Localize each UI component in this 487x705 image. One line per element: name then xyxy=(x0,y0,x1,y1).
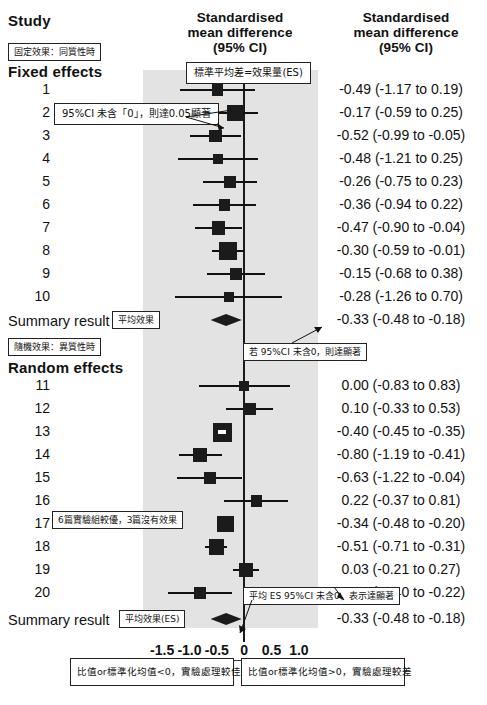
effect-size-marker xyxy=(217,516,233,532)
study-label: 13 xyxy=(4,423,50,439)
effect-size-value: -0.51 (-0.71 to -0.31) xyxy=(318,538,484,554)
effect-size-value: -0.40 (-0.45 to -0.35) xyxy=(318,423,484,439)
callout-footer-right: 比值or標準化均值>0，實驗處理較差 xyxy=(241,658,405,686)
effect-size-marker xyxy=(251,495,262,506)
effect-size-marker xyxy=(204,472,216,484)
callout-mean-effect-es: 平均效果(ES) xyxy=(119,610,185,628)
page-title: Study xyxy=(8,12,51,29)
column-header-values-line3: (95% CI) xyxy=(330,40,482,55)
axis-tick-label: 1.0 xyxy=(279,642,319,658)
marker-inner-slot xyxy=(218,430,226,433)
effect-size-value: -0.36 (-0.94 to 0.22) xyxy=(318,196,484,212)
effect-size-value: -0.49 (-1.17 to 0.19) xyxy=(318,81,484,97)
study-label: 1 xyxy=(4,81,50,97)
study-label: 3 xyxy=(4,127,50,143)
study-label: 18 xyxy=(4,538,50,554)
effect-size-value: -0.34 (-0.48 to -0.20) xyxy=(318,515,484,531)
callout-summary-ci-note: 若 95%CI 未含0，則達顯著 xyxy=(243,343,367,361)
study-label: 17 xyxy=(4,515,50,531)
study-label: 15 xyxy=(4,469,50,485)
effect-size-marker xyxy=(239,381,248,390)
effect-size-value: -0.63 (-1.22 to -0.04) xyxy=(318,469,484,485)
effect-size-marker xyxy=(212,221,226,235)
study-label: 2 xyxy=(4,104,50,120)
effect-size-marker xyxy=(230,268,242,280)
effect-size-marker xyxy=(213,154,223,164)
column-header-values: Standardised mean difference (95% CI) xyxy=(330,10,482,55)
effect-size-value: 0.10 (-0.33 to 0.53) xyxy=(318,400,484,416)
effect-size-value: -0.30 (-0.59 to -0.01) xyxy=(318,242,484,258)
effect-size-marker xyxy=(224,292,233,301)
callout-study17-note: 6篇實驗組較優，3篇沒有效果 xyxy=(52,511,183,529)
column-header-plot-line3: (95% CI) xyxy=(150,40,330,55)
study-label: 7 xyxy=(4,219,50,235)
effect-size-value: -0.47 (-0.90 to -0.04) xyxy=(318,219,484,235)
effect-size-marker xyxy=(209,130,222,143)
effect-size-value: -0.15 (-0.68 to 0.38) xyxy=(318,265,484,281)
column-header-plot: Standardised mean difference (95% CI) xyxy=(150,10,330,55)
effect-size-marker xyxy=(212,84,223,95)
callout-ci-excludes-zero: 95%CI 未含「0」，則達0.05顯著 xyxy=(54,103,219,125)
effect-size-marker xyxy=(219,199,230,210)
effect-size-value: -0.48 (-1.21 to 0.25) xyxy=(318,150,484,166)
callout-mean-es-note: 平均 ES 95%CI 未含0，表示達顯著 xyxy=(243,587,400,605)
column-header-values-line1: Standardised xyxy=(330,10,482,25)
effect-size-marker xyxy=(224,176,237,189)
callout-es-definition: 標準平均差=效果量(ES) xyxy=(186,62,311,84)
study-label: 16 xyxy=(4,492,50,508)
study-label: 4 xyxy=(4,150,50,166)
study-label: 6 xyxy=(4,196,50,212)
effect-size-value: 0.22 (-0.37 to 0.81) xyxy=(318,492,484,508)
effect-size-value: 0.03 (-0.21 to 0.27) xyxy=(318,561,484,577)
summary-effect-value: -0.33 (-0.48 to -0.18) xyxy=(318,610,484,626)
study-label: 8 xyxy=(4,242,50,258)
study-label: 12 xyxy=(4,400,50,416)
column-header-plot-line2: mean difference xyxy=(150,25,330,40)
effect-size-marker xyxy=(209,539,224,554)
column-header-values-line2: mean difference xyxy=(330,25,482,40)
study-label: 10 xyxy=(4,288,50,304)
effect-size-marker xyxy=(239,563,253,577)
study-label: 14 xyxy=(4,446,50,462)
callout-fixed-effects-note: 固定效果：同質性時 xyxy=(8,43,101,61)
study-label: 5 xyxy=(4,173,50,189)
section-title-random-effects: Random effects xyxy=(8,359,123,376)
study-label: 20 xyxy=(4,584,50,600)
effect-size-value: -0.52 (-0.99 to -0.05) xyxy=(318,127,484,143)
effect-size-marker xyxy=(193,448,207,462)
callout-footer-left: 比值or標準化均值<0，實驗處理較佳 xyxy=(70,658,234,686)
section-title-fixed-effects: Fixed effects xyxy=(8,63,102,80)
effect-size-value: -0.28 (-1.26 to 0.70) xyxy=(318,288,484,304)
effect-size-value: -0.80 (-1.19 to -0.41) xyxy=(318,446,484,462)
summary-label-fixed: Summary result xyxy=(8,313,110,329)
effect-size-marker xyxy=(243,403,256,416)
effect-size-marker xyxy=(219,242,237,260)
effect-size-value: -0.17 (-0.59 to 0.25) xyxy=(318,104,484,120)
effect-size-marker xyxy=(194,587,206,599)
effect-size-value: -0.26 (-0.75 to 0.23) xyxy=(318,173,484,189)
callout-random-effects-note: 隨機效果：異質性時 xyxy=(8,338,101,356)
callout-mean-effect: 平均效果 xyxy=(112,311,160,329)
summary-label-random: Summary result xyxy=(8,612,110,628)
column-header-plot-line1: Standardised xyxy=(150,10,330,25)
effect-size-marker xyxy=(227,105,243,121)
summary-effect-value: -0.33 (-0.48 to -0.18) xyxy=(318,311,484,327)
study-label: 9 xyxy=(4,265,50,281)
study-label: 11 xyxy=(4,377,50,393)
effect-size-value: 0.00 (-0.83 to 0.83) xyxy=(318,377,484,393)
forest-plot-figure: 1-0.49 (-1.17 to 0.19)2-0.17 (-0.59 to 0… xyxy=(0,0,487,705)
study-label: 19 xyxy=(4,561,50,577)
